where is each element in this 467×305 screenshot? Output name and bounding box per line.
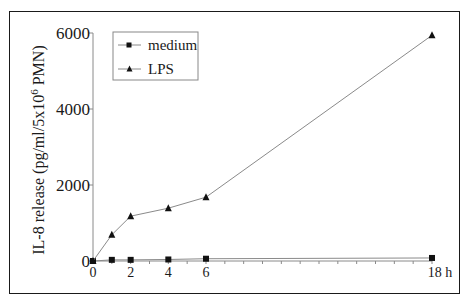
triangle-marker-icon — [203, 193, 210, 200]
x-tick-label: 0 — [90, 265, 97, 280]
square-marker-icon — [165, 256, 171, 262]
y-tick-label: 2000 — [56, 176, 90, 195]
triangle-marker-icon — [429, 31, 436, 38]
x-tick-label: 2 — [127, 265, 134, 280]
y-tick-label: 6000 — [56, 24, 90, 43]
square-marker-icon — [429, 255, 435, 261]
y-axis-title: IL-8 release (pg/ml/5x106 PMN) — [28, 45, 48, 254]
x-tick-label: 6 — [203, 265, 210, 280]
y-tick-label: 4000 — [56, 100, 90, 119]
line-chart: 0200040006000024618 hmediumLPSIL-8 relea… — [0, 0, 467, 305]
x-tick-label: 4 — [165, 265, 172, 280]
square-marker-icon — [128, 257, 134, 263]
square-marker-icon — [127, 43, 132, 48]
square-marker-icon — [203, 256, 209, 262]
legend-label-lps: LPS — [148, 61, 174, 77]
x-tick-label: 18 h — [428, 265, 453, 280]
square-marker-icon — [109, 257, 115, 263]
legend-label-medium: medium — [148, 37, 197, 53]
